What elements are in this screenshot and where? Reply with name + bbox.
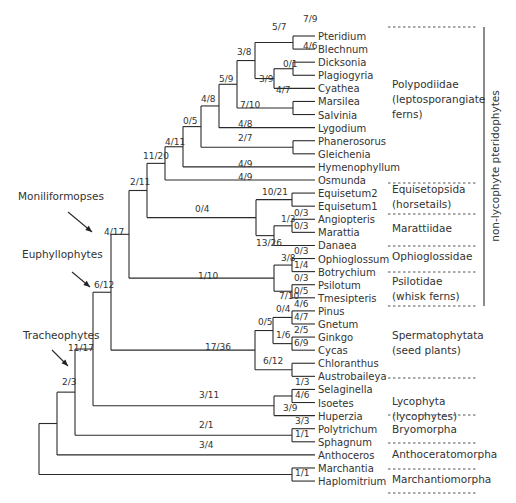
- support-value: 11/17: [68, 343, 94, 353]
- group-label: (seed plants): [392, 344, 461, 356]
- taxon-label: Haplomitrium: [318, 476, 386, 487]
- taxon-label: Botrychium: [318, 267, 376, 278]
- taxon-label: Marsilea: [318, 96, 360, 107]
- support-value: 0/4: [195, 204, 210, 214]
- group-label: Bryomorpha: [392, 423, 457, 435]
- support-value: 1/3: [295, 377, 309, 387]
- support-value: 2/3: [62, 377, 76, 387]
- taxon-label: Plagiogyria: [318, 70, 373, 81]
- taxon-label: Anthoceros: [318, 450, 374, 461]
- support-value: 4/17: [104, 227, 124, 237]
- taxon-label: Pinus: [318, 306, 344, 317]
- support-value: 0/1: [283, 59, 297, 69]
- support-value: 2/5: [294, 325, 308, 335]
- group-label: Spermatophytata: [392, 329, 484, 341]
- taxon-label: Polytrichum: [318, 424, 377, 435]
- support-value: 2/1: [199, 420, 213, 430]
- group-label: Equisetopsida: [392, 183, 466, 195]
- taxon-label: Huperzia: [318, 411, 363, 422]
- support-value: 4/8: [201, 94, 216, 104]
- taxon-label: Selaginella: [318, 384, 373, 395]
- group-label: Marchantiomorpha: [392, 473, 491, 485]
- group-label: Marattiidae: [392, 222, 452, 234]
- taxon-label: Equisetum2: [318, 188, 378, 199]
- group-label: (leptosporangiate: [392, 93, 485, 105]
- taxon-label: Cycas: [318, 345, 348, 356]
- support-value: 4/9: [238, 159, 253, 169]
- support-value: 3/9: [283, 403, 298, 413]
- taxon-label: Phanerosorus: [318, 136, 386, 147]
- group-label: Psilotidae: [392, 275, 442, 287]
- group-label: (horsetails): [392, 198, 451, 210]
- support-value: 17/36: [205, 342, 231, 352]
- taxon-label: Gleichenia: [318, 149, 371, 160]
- taxon-label: Salvinia: [318, 110, 357, 121]
- support-value: 11/20: [143, 151, 169, 161]
- support-value: 7/10: [240, 100, 260, 110]
- support-value: 1/1: [295, 468, 309, 478]
- support-value: 3/9: [259, 74, 274, 84]
- support-value: 5/9: [219, 74, 234, 84]
- taxon-label: Tmesipteris: [317, 293, 377, 304]
- support-value: 3/3: [295, 416, 309, 426]
- taxon-label: Chloranthus: [318, 358, 379, 369]
- support-value: 1/6: [276, 330, 291, 340]
- support-value: 0/4: [276, 304, 291, 314]
- support-value: 6/12: [263, 356, 283, 366]
- support-value: 4/7: [294, 312, 308, 322]
- side-label: non-lycophyte pteridophytes: [489, 90, 501, 241]
- group-label: Lycophyta: [392, 395, 445, 407]
- clade-label: Euphyllophytes: [22, 248, 103, 260]
- support-value: 4/9: [238, 172, 253, 182]
- group-label: ferns): [392, 108, 423, 120]
- taxon-label: Sphagnum: [318, 437, 372, 448]
- taxon-label: Austrobaileya: [318, 371, 387, 382]
- support-value: 4/6: [303, 41, 318, 51]
- support-value: 4/11: [165, 137, 185, 147]
- taxon-label: Dicksonia: [318, 57, 366, 68]
- support-value: 6/12: [94, 280, 114, 290]
- support-value: 3/8: [237, 47, 252, 57]
- support-value: 2/7: [238, 133, 252, 143]
- taxon-label: Danaea: [318, 240, 357, 251]
- group-label: Polypodiidae: [392, 78, 459, 90]
- support-value: 6/9: [294, 338, 309, 348]
- taxon-label: Gnetum: [318, 319, 358, 330]
- taxon-label: Blechnum: [318, 44, 368, 55]
- support-value: 10/21: [262, 187, 288, 197]
- taxon-label: Ginkgo: [318, 332, 353, 343]
- phylogenetic-tree: PteridiumBlechnumDicksoniaPlagiogyriaCya…: [0, 0, 516, 503]
- support-value: 0/3: [294, 208, 308, 218]
- group-label: (lycophytes): [392, 410, 457, 422]
- taxon-label: Isoetes: [318, 398, 354, 409]
- support-value: 5/7: [272, 22, 286, 32]
- support-value: 4/8: [238, 119, 253, 129]
- support-value: 3/4: [199, 440, 214, 450]
- support-value: 3/11: [199, 390, 219, 400]
- support-value: 0/5: [183, 116, 197, 126]
- taxon-label: Marattia: [318, 227, 360, 238]
- group-label: Ophioglossidae: [392, 250, 472, 262]
- support-value: 2/11: [130, 177, 150, 187]
- clade-label: Moniliformopses: [18, 190, 104, 202]
- taxon-label: Cyathea: [318, 83, 360, 94]
- taxon-label: Angiopteris: [318, 214, 375, 225]
- clade-label: Tracheophytes: [22, 329, 100, 341]
- support-value: 1/10: [198, 271, 218, 281]
- support-value: 0/3: [294, 246, 308, 256]
- support-value: 4/6: [295, 390, 310, 400]
- group-label: Anthoceratomorpha: [392, 448, 497, 460]
- support-value: 0/5: [258, 317, 272, 327]
- support-value: 1/4: [294, 260, 309, 270]
- support-value: 1/1: [295, 429, 309, 439]
- taxon-label: Ophioglossum: [318, 254, 389, 265]
- support-value: 4/7: [276, 85, 290, 95]
- support-value: 0/3: [294, 273, 308, 283]
- taxon-label: Equisetum1: [318, 201, 378, 212]
- support-value: 0/3: [294, 221, 308, 231]
- taxon-label: Lygodium: [318, 123, 366, 134]
- taxon-label: Osmunda: [318, 175, 366, 186]
- support-value: 13/26: [256, 238, 282, 248]
- taxon-label: Pteridium: [318, 31, 366, 42]
- taxon-label: Hymenophyllum: [318, 162, 400, 173]
